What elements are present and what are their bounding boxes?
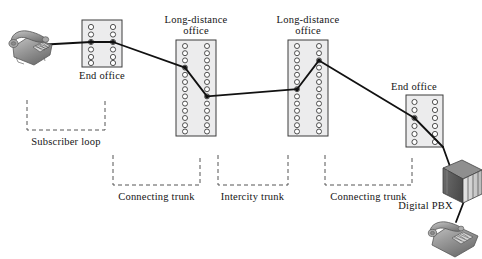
label-subscriber-loop: Subscriber loop (25, 136, 107, 148)
label-long-distance-office-2-line1: Long-distance (265, 14, 351, 26)
bracket-connecting-trunk-left (113, 155, 200, 185)
switch-end-office-right (406, 95, 443, 147)
path-node-dots (89, 40, 417, 120)
switch-long-distance-office-2 (288, 40, 328, 136)
label-end-office-right: End office (383, 81, 445, 93)
bracket-intercity-trunk (218, 155, 288, 185)
network-diagram-svg (0, 0, 482, 259)
label-long-distance-office-1-line2: office (153, 25, 239, 37)
bracket-subscriber-loop (27, 100, 105, 130)
switch-long-distance-office-1 (176, 40, 216, 136)
digital-pbx-icon (443, 160, 482, 203)
label-connecting-trunk-left: Connecting trunk (113, 191, 200, 203)
label-end-office-left: End office (71, 70, 133, 82)
pbx-telephone-icon (428, 222, 478, 257)
label-intercity-trunk: Intercity trunk (215, 191, 290, 203)
subscriber-telephone-icon (9, 31, 52, 65)
diagram-canvas: End office Long-distance office Long-dis… (0, 0, 482, 259)
label-long-distance-office-1-line1: Long-distance (153, 14, 239, 26)
bracket-connecting-trunk-right (325, 155, 412, 185)
label-long-distance-office-2-line2: office (265, 25, 351, 37)
label-digital-pbx: Digital PBX (389, 200, 462, 212)
